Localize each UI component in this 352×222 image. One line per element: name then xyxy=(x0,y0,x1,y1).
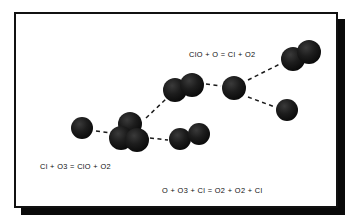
oxygen-atom-to-o2-dashed-line xyxy=(248,64,280,80)
diagram-canvas: ClO + O = Cl + O2 Cl + O3 = ClO + O2 O +… xyxy=(16,14,336,206)
oxygen-atom-to-cl-dashed-line xyxy=(248,97,275,107)
atom-sphere xyxy=(169,128,191,150)
atom-sphere xyxy=(125,128,149,152)
chlorine-atom-left xyxy=(71,117,93,139)
atom-sphere xyxy=(222,76,246,100)
atom-sphere xyxy=(188,123,210,145)
oxygen-atom-middle xyxy=(222,76,246,100)
reaction-label-bottom-left: Cl + O3 = ClO + O2 xyxy=(40,162,111,171)
clo-to-oxygen-atom-dashed-line xyxy=(206,84,221,86)
chlorine-monoxide-molecule xyxy=(163,73,204,102)
atom-sphere xyxy=(71,117,93,139)
diagram-stage: ClO + O = Cl + O2 Cl + O3 = ClO + O2 O +… xyxy=(0,0,352,222)
oxygen-molecule-upper-right xyxy=(281,40,321,71)
ozone-to-oxygen-lower-dashed-line xyxy=(150,138,168,140)
atom-sphere xyxy=(180,73,204,97)
ozone-to-clo-dashed-line xyxy=(146,99,166,118)
ozone-molecule xyxy=(109,112,149,152)
molecule-scene xyxy=(16,14,336,206)
cl-to-ozone-dashed-line xyxy=(96,131,112,133)
chlorine-atom-right xyxy=(276,99,298,121)
oxygen-molecule-lower xyxy=(169,123,210,150)
reaction-label-net: O + O3 + Cl = O2 + O2 + Cl xyxy=(162,186,263,195)
atom-sphere xyxy=(276,99,298,121)
diagram-panel: ClO + O = Cl + O2 Cl + O3 = ClO + O2 O +… xyxy=(14,12,338,208)
reaction-label-top: ClO + O = Cl + O2 xyxy=(189,50,256,59)
atom-sphere xyxy=(297,40,321,64)
